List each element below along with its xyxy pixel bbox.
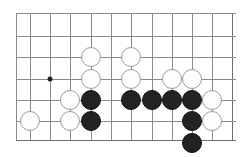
stone-white-3[interactable]: [121, 69, 141, 89]
stone-white-12[interactable]: [202, 90, 222, 110]
grid-line-horizontal-0: [16, 13, 236, 14]
stone-white-14[interactable]: [60, 111, 80, 131]
grid-line-horizontal-6: [16, 140, 236, 141]
stone-black-16[interactable]: [182, 111, 202, 131]
stone-black-8[interactable]: [121, 90, 141, 110]
go-board-figure: [0, 0, 242, 157]
stone-black-10[interactable]: [162, 90, 182, 110]
stone-white-0[interactable]: [81, 47, 101, 67]
goban-grid: [0, 0, 242, 157]
stone-black-18[interactable]: [182, 133, 202, 153]
stone-white-4[interactable]: [162, 69, 182, 89]
star-point-0: [48, 77, 53, 82]
stone-white-5[interactable]: [182, 69, 202, 89]
stone-white-2[interactable]: [81, 69, 101, 89]
stone-black-11[interactable]: [182, 90, 202, 110]
stone-white-1[interactable]: [121, 47, 141, 67]
grid-line-horizontal-1: [16, 36, 236, 37]
stone-white-17[interactable]: [202, 111, 222, 131]
stone-white-13[interactable]: [20, 111, 40, 131]
stone-black-15[interactable]: [81, 111, 101, 131]
stone-black-7[interactable]: [81, 90, 101, 110]
stone-black-9[interactable]: [142, 90, 162, 110]
stone-white-6[interactable]: [60, 90, 80, 110]
